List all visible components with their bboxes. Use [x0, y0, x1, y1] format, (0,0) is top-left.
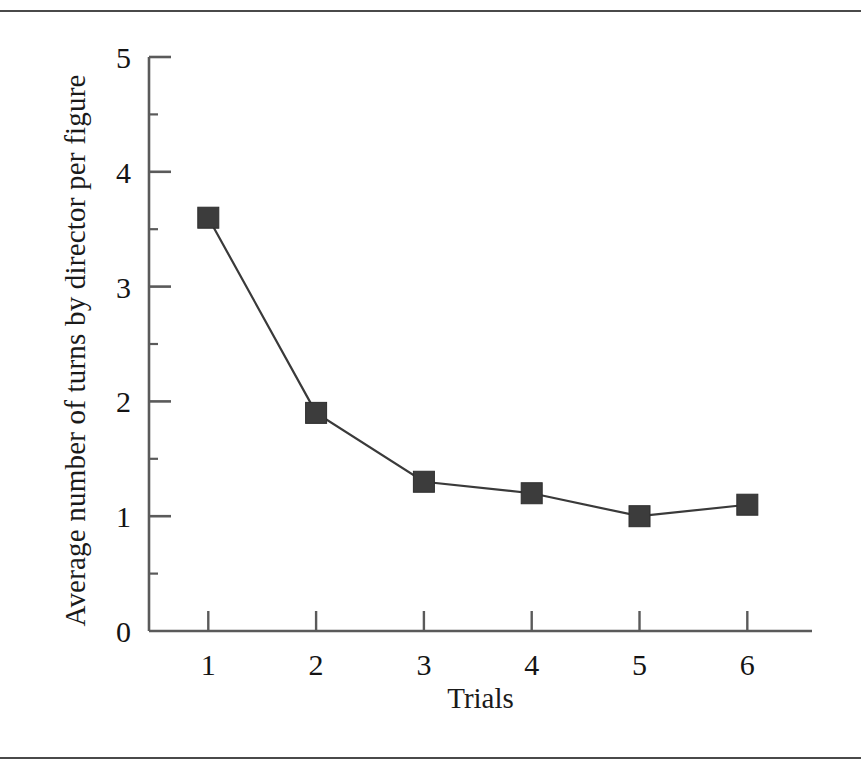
x-tick-label: 3 [416, 648, 431, 681]
y-tick-label: 1 [116, 500, 131, 533]
series-markers [198, 207, 758, 526]
y-tick-label: 2 [116, 385, 131, 418]
page-rule-top [0, 10, 861, 12]
data-point-marker[interactable] [306, 402, 327, 423]
x-tick-label: 1 [201, 648, 216, 681]
y-tick-label: 4 [116, 156, 131, 189]
y-tick-label: 5 [116, 41, 131, 74]
data-point-marker[interactable] [413, 471, 434, 492]
line-chart-plot: 012345 123456 [0, 14, 861, 754]
figure-container: Average number of turns by director per … [0, 14, 861, 754]
ticks-layer [149, 57, 747, 631]
series-line [208, 218, 747, 516]
x-tick-label: 4 [524, 648, 539, 681]
data-line [208, 218, 747, 516]
page-rule-bottom [0, 757, 861, 759]
x-tick-label: 2 [309, 648, 324, 681]
y-tick-label: 3 [116, 271, 131, 304]
data-point-marker[interactable] [737, 494, 758, 515]
y-tick-labels: 012345 [116, 41, 131, 648]
x-tick-label: 6 [740, 648, 755, 681]
data-point-marker[interactable] [198, 207, 219, 228]
axes-layer [149, 57, 812, 631]
data-point-marker[interactable] [521, 483, 542, 504]
data-point-marker[interactable] [629, 506, 650, 527]
x-tick-label: 5 [632, 648, 647, 681]
y-tick-label: 0 [116, 615, 131, 648]
x-tick-labels: 123456 [201, 648, 755, 681]
